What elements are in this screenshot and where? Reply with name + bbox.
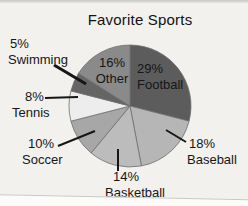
pie-chart-figure: Favorite Sports 16% Other 29% Football 5… xyxy=(0,0,248,206)
label-swimming-value: 5% xyxy=(10,36,68,52)
label-baseball: 18% Baseball xyxy=(187,136,237,168)
label-baseball-value: 18% xyxy=(189,136,237,152)
label-football: 29% Football xyxy=(137,61,183,93)
label-swimming-name: Swimming xyxy=(8,52,68,68)
label-other: 16% Other xyxy=(88,55,136,87)
label-tennis-name: Tennis xyxy=(12,105,50,121)
label-tennis: 8% Tennis xyxy=(12,89,50,121)
label-swimming: 5% Swimming xyxy=(8,36,68,68)
label-football-value: 29% xyxy=(137,61,183,77)
label-other-name: Other xyxy=(88,71,136,87)
label-basketball-value: 14% xyxy=(113,169,165,185)
label-football-name: Football xyxy=(137,77,183,93)
tennis-leader xyxy=(45,97,78,98)
label-soccer: 10% Soccer xyxy=(22,136,62,168)
label-baseball-name: Baseball xyxy=(187,152,237,168)
label-soccer-name: Soccer xyxy=(22,152,62,168)
label-tennis-value: 8% xyxy=(25,89,50,105)
label-soccer-value: 10% xyxy=(28,136,62,152)
label-other-value: 16% xyxy=(88,55,136,71)
